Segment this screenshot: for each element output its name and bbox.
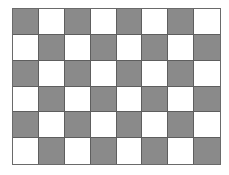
grid-cell-dark [39, 35, 65, 61]
grid-cell-light [39, 61, 65, 87]
grid-cell-dark [65, 112, 91, 138]
grid-cell-light [39, 112, 65, 138]
grid-cell-dark [91, 87, 117, 113]
grid-cell-light [13, 138, 39, 164]
grid-cell-light [65, 138, 91, 164]
grid-cell-dark [13, 9, 39, 35]
grid-cell-light [168, 138, 194, 164]
grid-cell-dark [91, 35, 117, 61]
grid-cell-light [168, 35, 194, 61]
grid-cell-light [13, 35, 39, 61]
grid-cell-light [13, 87, 39, 113]
grid-cell-light [194, 112, 220, 138]
grid-cell-light [168, 87, 194, 113]
grid-cell-dark [142, 35, 168, 61]
grid-cell-light [117, 138, 143, 164]
grid-cell-dark [65, 9, 91, 35]
grid-cell-dark [39, 138, 65, 164]
grid-cell-dark [194, 87, 220, 113]
grid-cell-dark [168, 9, 194, 35]
grid-cell-light [91, 9, 117, 35]
grid-cell-light [39, 9, 65, 35]
grid-cell-light [117, 35, 143, 61]
grid-cell-light [91, 61, 117, 87]
grid-cell-dark [117, 61, 143, 87]
grid-cell-dark [168, 112, 194, 138]
grid-cell-light [65, 35, 91, 61]
grid-cell-dark [168, 61, 194, 87]
grid-cell-light [194, 61, 220, 87]
grid-cell-light [91, 112, 117, 138]
grid-cell-dark [39, 87, 65, 113]
grid-cell-light [142, 61, 168, 87]
grid-cell-light [194, 9, 220, 35]
checkerboard-grid [12, 8, 221, 165]
grid-cell-dark [13, 61, 39, 87]
grid-cell-dark [91, 138, 117, 164]
grid-cell-dark [117, 9, 143, 35]
grid-cell-dark [142, 87, 168, 113]
grid-cell-light [65, 87, 91, 113]
grid-cell-light [142, 9, 168, 35]
grid-cell-light [142, 112, 168, 138]
grid-cell-dark [142, 138, 168, 164]
grid-cell-light [117, 87, 143, 113]
grid-cell-dark [117, 112, 143, 138]
grid-cell-dark [194, 35, 220, 61]
grid-cell-dark [13, 112, 39, 138]
grid-cell-dark [194, 138, 220, 164]
grid-cell-dark [65, 61, 91, 87]
